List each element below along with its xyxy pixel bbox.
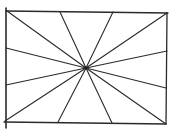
ray-line-2 xyxy=(86,12,113,68)
frame-edge-right xyxy=(166,13,167,124)
ray-line-5 xyxy=(86,68,166,88)
center-point xyxy=(85,67,88,70)
frame-edge-top xyxy=(6,11,168,13)
frame-edge-bottom xyxy=(4,122,166,124)
ray-line-7 xyxy=(86,68,112,123)
ray-line-0 xyxy=(7,11,86,68)
ray-line-11 xyxy=(6,48,86,68)
ray-line-8 xyxy=(58,68,86,122)
radial-diagram xyxy=(0,0,174,133)
ray-line-6 xyxy=(86,68,166,124)
ray-line-9 xyxy=(5,68,86,121)
ray-line-1 xyxy=(60,12,86,68)
